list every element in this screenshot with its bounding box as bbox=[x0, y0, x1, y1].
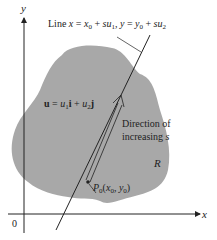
origin-label: 0 bbox=[12, 218, 17, 229]
line-equation-label: Line x = x0 + su1, y = y0 + su2 bbox=[48, 18, 167, 31]
point-p0 bbox=[86, 180, 90, 184]
diagram-canvas: y x 0 Line x = x0 + su1, y = y0 + su2 u … bbox=[0, 0, 217, 240]
y-axis-label: y bbox=[20, 2, 26, 14]
direction-label-line2: increasing s bbox=[122, 131, 170, 142]
region-label: R bbox=[153, 157, 161, 169]
x-axis-label: x bbox=[201, 208, 207, 220]
line-label-leader bbox=[117, 37, 141, 52]
direction-label-line1: Direction of bbox=[122, 118, 171, 129]
